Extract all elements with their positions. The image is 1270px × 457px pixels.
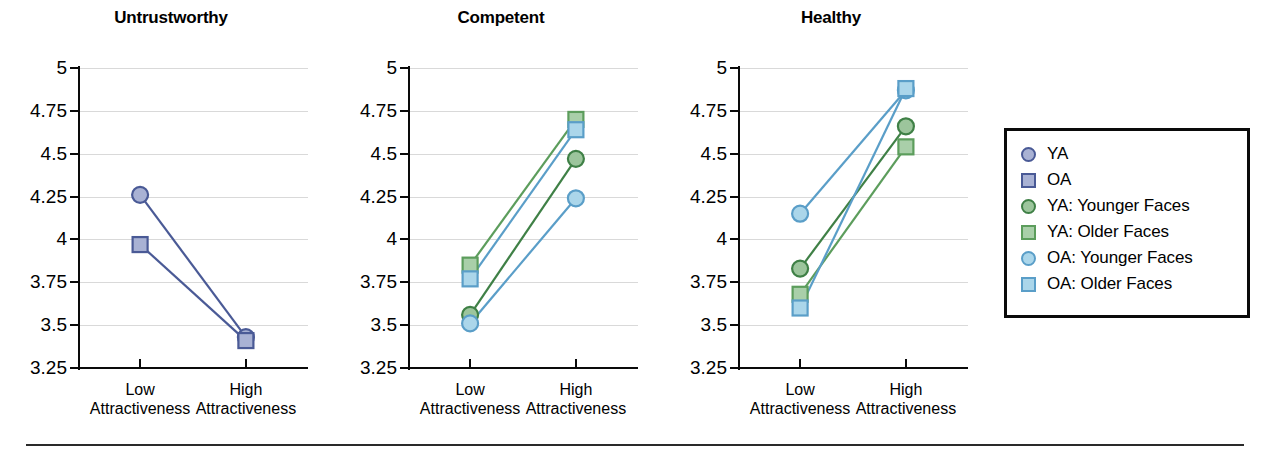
x-axis-tick-label: LowAttractiveness <box>750 380 850 418</box>
legend-item[interactable]: OA: Younger Faces <box>1007 245 1247 271</box>
figure-canvas: Untrustworthy54.754.54.2543.753.53.25Low… <box>0 0 1270 457</box>
y-axis-tick-label: 3.75 <box>360 271 397 293</box>
chart-panel: Healthy54.754.54.2543.753.53.25LowAttrac… <box>666 0 996 430</box>
legend-circle-icon <box>1021 147 1036 162</box>
data-point-square <box>568 122 583 137</box>
y-axis-tick-label: 4.75 <box>30 100 67 122</box>
legend-item-label: OA: Older Faces <box>1047 274 1172 294</box>
x-axis-tick-label-line1: High <box>856 380 956 399</box>
data-point-square <box>133 237 148 252</box>
series-line <box>470 159 576 315</box>
legend-item-label: YA: Younger Faces <box>1047 196 1190 216</box>
y-axis-tick-label: 4.5 <box>371 143 397 165</box>
series-layer <box>78 68 308 368</box>
data-point-circle <box>792 206 808 222</box>
legend-item[interactable]: YA: Older Faces <box>1007 219 1247 245</box>
series-line <box>800 90 906 213</box>
data-point-circle <box>792 261 808 277</box>
x-axis-tick-label: HighAttractiveness <box>856 380 956 418</box>
x-axis-tick-label-line2: Attractiveness <box>856 399 956 418</box>
x-axis-tick-label: LowAttractiveness <box>90 380 190 418</box>
y-axis-tick-label: 3.5 <box>371 314 397 336</box>
data-point-square <box>898 139 913 154</box>
y-axis-tick-label: 3.5 <box>41 314 67 336</box>
legend-square-icon <box>1021 225 1036 240</box>
y-axis-tick-label: 4 <box>56 228 67 250</box>
y-axis-tick-label: 3.75 <box>30 271 67 293</box>
data-point-circle <box>462 315 478 331</box>
data-point-square <box>793 301 808 316</box>
panel-title: Healthy <box>666 8 996 28</box>
y-axis-tick-label: 3.5 <box>701 314 727 336</box>
y-axis-tick-label: 4.25 <box>360 186 397 208</box>
plot-area: 54.754.54.2543.753.53.25LowAttractivenes… <box>738 68 968 368</box>
y-axis-tick-label: 3.25 <box>360 357 397 379</box>
chart-legend: YAOAYA: Younger FacesYA: Older FacesOA: … <box>1004 128 1250 318</box>
data-point-square <box>238 333 253 348</box>
legend-item[interactable]: YA <box>1007 141 1247 167</box>
x-axis-tick-label: LowAttractiveness <box>420 380 520 418</box>
legend-circle-icon <box>1021 199 1036 214</box>
x-axis-tick-label-line2: Attractiveness <box>90 399 190 418</box>
y-axis-tick-label: 4 <box>386 228 397 250</box>
series-line <box>140 195 246 337</box>
panel-title: Competent <box>336 8 666 28</box>
y-axis-tick-label: 5 <box>56 57 67 79</box>
y-axis-tick-label: 4.75 <box>360 100 397 122</box>
legend-item-label: OA <box>1047 170 1071 190</box>
x-axis-tick-label-line2: Attractiveness <box>420 399 520 418</box>
plot-area: 54.754.54.2543.753.53.25LowAttractivenes… <box>78 68 308 368</box>
chart-panel: Untrustworthy54.754.54.2543.753.53.25Low… <box>6 0 336 430</box>
data-point-square <box>898 81 913 96</box>
x-axis-tick-label-line2: Attractiveness <box>196 399 296 418</box>
y-axis-tick-label: 4.5 <box>41 143 67 165</box>
x-axis-tick-label-line1: Low <box>90 380 190 399</box>
y-axis-tick-label: 5 <box>716 57 727 79</box>
data-point-circle <box>568 190 584 206</box>
legend-circle-icon <box>1021 251 1036 266</box>
y-axis-tick-label: 4.75 <box>690 100 727 122</box>
data-point-circle <box>132 187 148 203</box>
series-line <box>140 245 246 341</box>
legend-item[interactable]: OA: Older Faces <box>1007 271 1247 297</box>
x-axis-tick-label: HighAttractiveness <box>526 380 626 418</box>
series-line <box>470 130 576 279</box>
legend-item-label: YA: Older Faces <box>1047 222 1169 242</box>
series-line <box>800 147 906 294</box>
legend-item[interactable]: OA <box>1007 167 1247 193</box>
y-axis-tick-label: 5 <box>386 57 397 79</box>
y-axis-tick-label: 3.25 <box>690 357 727 379</box>
x-axis-tick-label-line2: Attractiveness <box>526 399 626 418</box>
x-axis-tick-label-line1: Low <box>750 380 850 399</box>
chart-panel: Competent54.754.54.2543.753.53.25LowAttr… <box>336 0 666 430</box>
legend-square-icon <box>1021 173 1036 188</box>
plot-area: 54.754.54.2543.753.53.25LowAttractivenes… <box>408 68 638 368</box>
series-line <box>470 198 576 323</box>
series-line <box>470 119 576 265</box>
x-axis-tick-label-line2: Attractiveness <box>750 399 850 418</box>
legend-square-icon <box>1021 277 1036 292</box>
data-point-circle <box>568 151 584 167</box>
x-axis-tick-label-line1: High <box>196 380 296 399</box>
panel-title: Untrustworthy <box>6 8 336 28</box>
series-layer <box>738 68 968 368</box>
x-axis-tick-label: HighAttractiveness <box>196 380 296 418</box>
series-layer <box>408 68 638 368</box>
data-point-square <box>463 271 478 286</box>
y-axis-tick-label: 4.5 <box>701 143 727 165</box>
y-axis-tick-label: 3.75 <box>690 271 727 293</box>
y-axis-tick-label: 4.25 <box>690 186 727 208</box>
legend-item[interactable]: YA: Younger Faces <box>1007 193 1247 219</box>
data-point-circle <box>898 118 914 134</box>
legend-item-label: OA: Younger Faces <box>1047 248 1193 268</box>
x-axis-tick-label-line1: High <box>526 380 626 399</box>
footer-rule <box>26 444 1244 446</box>
y-axis-tick-label: 3.25 <box>30 357 67 379</box>
y-axis-tick-label: 4 <box>716 228 727 250</box>
series-line <box>800 89 906 308</box>
y-axis-tick-label: 4.25 <box>30 186 67 208</box>
x-axis-tick-label-line1: Low <box>420 380 520 399</box>
legend-item-label: YA <box>1047 144 1068 164</box>
